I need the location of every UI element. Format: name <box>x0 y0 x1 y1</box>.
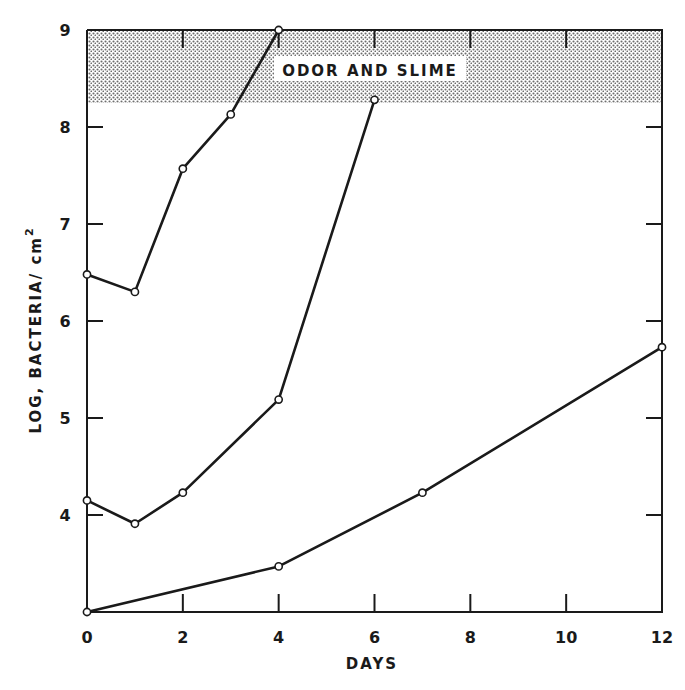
y-tick-label: 5 <box>59 409 70 428</box>
data-point-marker <box>83 608 90 615</box>
data-point-marker <box>179 489 186 496</box>
series-3-line <box>83 344 665 616</box>
x-tick-label: 0 <box>81 628 92 647</box>
plot-frame <box>87 30 662 612</box>
x-axis-title: DAYS <box>346 655 398 673</box>
x-tick-label: 12 <box>651 628 673 647</box>
y-tick-label: 9 <box>59 21 70 40</box>
x-tick-labels: 024681012 <box>81 628 673 647</box>
y-axis-title: LOG, BACTERIA/ cm2 <box>23 226 45 433</box>
data-point-marker <box>658 344 665 351</box>
y-axis-title-superscript: 2 <box>23 226 36 236</box>
y-tick-label: 8 <box>59 118 70 137</box>
chart: ODOR AND SLIME 024681012 456789 DAYS LOG… <box>0 0 685 690</box>
x-tick-label: 8 <box>465 628 476 647</box>
series-lines <box>83 26 665 615</box>
x-tick-label: 2 <box>177 628 188 647</box>
data-point-marker <box>275 396 282 403</box>
data-point-marker <box>227 111 234 118</box>
data-point-marker <box>275 26 282 33</box>
data-point-marker <box>179 165 186 172</box>
axis-ticks <box>87 30 662 612</box>
data-point-marker <box>419 489 426 496</box>
data-point-marker <box>371 96 378 103</box>
x-tick-label: 6 <box>369 628 380 647</box>
y-axis-title-text: LOG, BACTERIA/ cm <box>27 236 45 434</box>
x-tick-label: 4 <box>273 628 284 647</box>
data-point-marker <box>275 563 282 570</box>
series-2-line <box>83 96 378 527</box>
data-point-marker <box>131 288 138 295</box>
data-point-marker <box>83 497 90 504</box>
x-tick-label: 10 <box>555 628 577 647</box>
band-label-text: ODOR AND SLIME <box>282 62 458 80</box>
y-tick-labels: 456789 <box>59 21 70 525</box>
data-point-marker <box>131 520 138 527</box>
y-tick-label: 6 <box>59 312 70 331</box>
odor-slime-label: ODOR AND SLIME <box>274 56 466 81</box>
svg-text:LOG, BACTERIA/ cm2: LOG, BACTERIA/ cm2 <box>23 226 45 433</box>
data-point-marker <box>83 271 90 278</box>
y-tick-label: 7 <box>59 215 70 234</box>
y-tick-label: 4 <box>59 506 70 525</box>
